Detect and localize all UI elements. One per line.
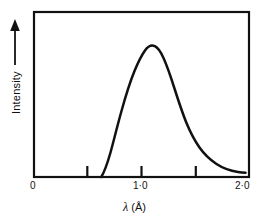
x-axis-title: λ (Å) [0, 201, 269, 213]
y-axis-label-group: Intensity [6, 18, 26, 114]
y-axis-title-text: Intensity [10, 71, 22, 114]
up-arrow-icon [8, 19, 24, 65]
chart-figure: 0 1·0 2·0 λ (Å) Intensity [0, 0, 269, 223]
x-axis-title-text: λ (Å) [123, 201, 146, 213]
plot-frame [34, 12, 249, 177]
xtick-label-2p0: 2·0 [235, 181, 249, 191]
xtick-label-0: 0 [30, 181, 36, 191]
spectrum-curve [101, 46, 245, 177]
xtick-label-1p0: 1·0 [133, 181, 147, 191]
